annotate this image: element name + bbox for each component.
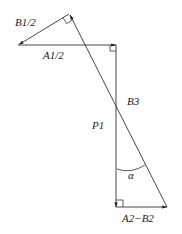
vector-diagram: B1/2 A1/2 B3 P1 α A2−B2	[0, 0, 182, 234]
label-alpha: α	[128, 169, 134, 181]
right-angle-mid-icon	[110, 45, 116, 51]
label-p1: P1	[91, 119, 104, 131]
right-angle-bottom-icon	[116, 200, 123, 207]
label-b3: B3	[127, 95, 140, 107]
vector-b3	[70, 15, 167, 207]
label-a1-half: A1/2	[42, 49, 64, 61]
right-angle-top-icon	[63, 18, 73, 24]
label-a2-minus-b2: A2−B2	[121, 212, 154, 224]
label-b1-half: B1/2	[15, 16, 36, 28]
